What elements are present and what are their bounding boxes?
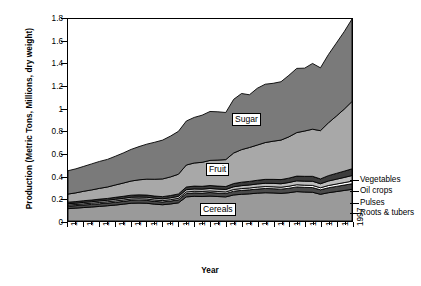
x-tick-mark xyxy=(99,222,100,227)
y-tick-label: 0 xyxy=(23,218,63,227)
plot-label-sugar: Sugar xyxy=(232,113,261,126)
stacked-area-series xyxy=(68,19,352,221)
y-tick-label: 1.6 xyxy=(23,36,63,45)
y-tick-label: 0.2 xyxy=(23,195,63,204)
x-tick-mark xyxy=(242,222,243,227)
x-tick-mark xyxy=(194,222,195,227)
x-tick-mark xyxy=(210,222,211,227)
x-tick-mark xyxy=(131,222,132,227)
legend-label-pulses: Pulses xyxy=(360,198,385,208)
x-tick-mark xyxy=(305,222,306,227)
y-tick-label: 0.4 xyxy=(23,172,63,181)
x-tick-mark xyxy=(353,222,354,227)
legend-leader-vegetables xyxy=(350,180,359,181)
plot-area xyxy=(67,18,353,222)
legend-leader-oil-crops xyxy=(350,191,359,192)
x-axis-title: Year xyxy=(67,266,353,275)
plot-label-cereals: Cereals xyxy=(200,203,236,216)
legend-label-vegetables: Vegetables xyxy=(360,175,401,185)
legend-label-oil-crops: Oil crops xyxy=(360,186,392,196)
x-tick-mark xyxy=(258,222,259,227)
legend-leader-pulses xyxy=(350,203,359,204)
legend-label-roots-tubers: Roots & tubers xyxy=(360,208,414,218)
x-tick-mark xyxy=(274,222,275,227)
y-tick-label: 1.4 xyxy=(23,59,63,68)
chart-figure: Production (Metric Tons, Millions, dry w… xyxy=(0,0,421,286)
x-tick-mark xyxy=(226,222,227,227)
x-tick-mark xyxy=(67,222,68,227)
y-tick-label: 1.2 xyxy=(23,82,63,91)
y-tick-label: 1.8 xyxy=(23,14,63,23)
x-tick-mark xyxy=(289,222,290,227)
x-tick-mark xyxy=(146,222,147,227)
x-tick-mark xyxy=(83,222,84,227)
legend-leader-roots-tubers xyxy=(350,213,359,214)
y-tick-label: 0.8 xyxy=(23,127,63,136)
x-tick-mark xyxy=(178,222,179,227)
plot-label-fruit: Fruit xyxy=(206,163,229,176)
x-tick-mark xyxy=(337,222,338,227)
y-tick-label: 1 xyxy=(23,104,63,113)
x-tick-mark xyxy=(162,222,163,227)
y-tick-label: 0.6 xyxy=(23,150,63,159)
x-tick-mark xyxy=(115,222,116,227)
x-tick-mark xyxy=(321,222,322,227)
